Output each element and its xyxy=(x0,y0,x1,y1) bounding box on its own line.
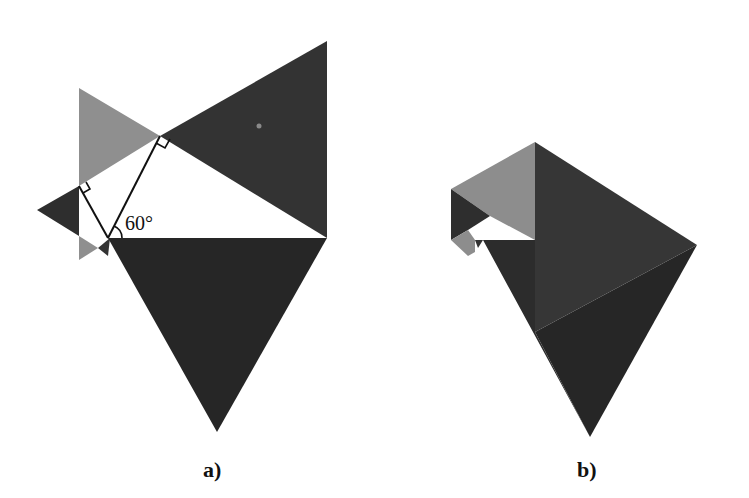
altitude-line-left xyxy=(79,186,108,238)
right-angle-marker-left xyxy=(83,182,90,193)
dark-triangle-top-right xyxy=(160,41,327,238)
figure-a: 60° a) xyxy=(37,41,327,482)
dark-triangle-bottom xyxy=(108,238,327,432)
light-gray-triangle-top xyxy=(79,88,160,186)
caption-b: b) xyxy=(577,457,597,482)
angle-arc xyxy=(114,226,122,238)
center-dot xyxy=(257,124,262,129)
angle-label: 60° xyxy=(125,212,153,234)
caption-a: a) xyxy=(203,457,221,482)
dark-triangle-tiny xyxy=(98,238,110,256)
dark-triangle-left xyxy=(37,186,79,236)
dark-notch xyxy=(475,240,483,248)
figure-b: b) xyxy=(451,142,697,482)
diagram-canvas: 60° a) b) xyxy=(0,0,749,498)
light-gray-triangle-bottom xyxy=(79,236,98,260)
